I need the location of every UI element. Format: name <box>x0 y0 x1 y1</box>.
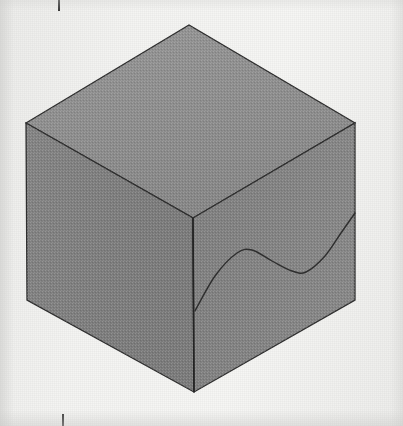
registration-tick-bottom <box>62 414 64 426</box>
registration-tick-top <box>58 0 60 11</box>
figure-page <box>0 0 403 426</box>
isometric-box-figure <box>0 0 403 426</box>
front-vertical-edge <box>193 218 194 392</box>
